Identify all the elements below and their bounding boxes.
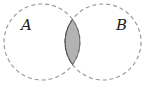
set-b-label: B (115, 16, 127, 34)
set-a-label: A (19, 16, 32, 34)
venn-diagram: A B (0, 0, 153, 88)
